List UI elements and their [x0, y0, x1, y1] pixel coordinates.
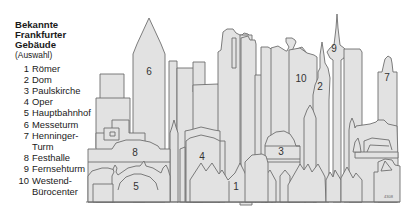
figure-code: 4308	[384, 194, 394, 199]
label-hauptbahnhof: 5	[133, 181, 139, 192]
label-messeturm: 6	[146, 66, 152, 77]
label-roemer: 1	[233, 181, 239, 192]
label-westend-buerocenter: 10	[295, 73, 307, 84]
skyline-illustration: 1 2 3 4 5 6 7 8 9 10 4308	[0, 0, 407, 212]
label-henninger-turm: 7	[384, 72, 390, 83]
label-fernsehturm: 9	[331, 43, 337, 54]
label-dom: 2	[317, 81, 323, 92]
label-festhalle: 8	[132, 147, 138, 158]
label-paulskirche: 3	[278, 146, 284, 157]
label-oper: 4	[199, 151, 205, 162]
